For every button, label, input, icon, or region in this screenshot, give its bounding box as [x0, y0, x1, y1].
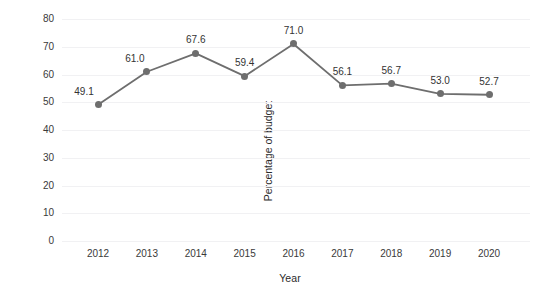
- gridline: [62, 158, 530, 159]
- x-axis-tick-label: 2015: [234, 249, 256, 259]
- data-point-marker[interactable]: [339, 82, 346, 89]
- data-point-marker[interactable]: [192, 50, 199, 57]
- gridline: [62, 102, 530, 103]
- x-axis-title: Year: [0, 272, 536, 284]
- gridline: [62, 186, 530, 187]
- x-axis-tick-label: 2020: [478, 249, 500, 259]
- y-axis-tick-label: 20: [26, 181, 54, 191]
- y-axis-title: Percentage of budget: [0, 0, 20, 301]
- gridline: [62, 241, 530, 242]
- data-point-label: 56.7: [382, 66, 401, 76]
- x-axis-tick-label: 2016: [282, 249, 304, 259]
- y-axis-tick-label: 30: [26, 153, 54, 163]
- x-axis-tick-label: 2017: [331, 249, 353, 259]
- x-axis-tick-label: 2014: [185, 249, 207, 259]
- data-point-marker[interactable]: [388, 80, 395, 87]
- data-point-label: 53.0: [430, 76, 449, 86]
- data-point-label: 67.6: [186, 35, 205, 45]
- x-axis-title-label: Year: [235, 272, 301, 284]
- x-axis-tick-label: 2018: [380, 249, 402, 259]
- data-point-marker[interactable]: [241, 73, 248, 80]
- data-point-label: 52.7: [479, 77, 498, 87]
- gridline: [62, 19, 530, 20]
- data-point-label: 49.1: [74, 87, 93, 97]
- y-axis-tick-labels: 80706050403020100: [26, 0, 54, 301]
- x-axis-tick-label: 2013: [136, 249, 158, 259]
- y-axis-tick-label: 40: [26, 125, 54, 135]
- data-point-marker[interactable]: [486, 91, 493, 98]
- gridline: [62, 75, 530, 76]
- data-point-marker[interactable]: [95, 101, 102, 108]
- y-axis-tick-label: 10: [26, 208, 54, 218]
- gridline: [62, 213, 530, 214]
- data-point-label: 56.1: [333, 67, 352, 77]
- gridline: [62, 130, 530, 131]
- data-point-label: 61.0: [125, 54, 144, 64]
- y-axis-tick-label: 60: [26, 70, 54, 80]
- gridline: [62, 47, 530, 48]
- data-point-label: 59.4: [235, 58, 254, 68]
- y-axis-tick-label: 0: [26, 236, 54, 246]
- y-axis-tick-label: 50: [26, 97, 54, 107]
- data-point-label: 71.0: [284, 26, 303, 36]
- x-axis-tick-label: 2019: [429, 249, 451, 259]
- line-chart: Percentage of budget 80706050403020100 2…: [0, 0, 536, 301]
- x-axis-tick-label: 2012: [87, 249, 109, 259]
- y-axis-tick-label: 80: [26, 14, 54, 24]
- y-axis-tick-label: 70: [26, 42, 54, 52]
- data-point-marker[interactable]: [437, 90, 444, 97]
